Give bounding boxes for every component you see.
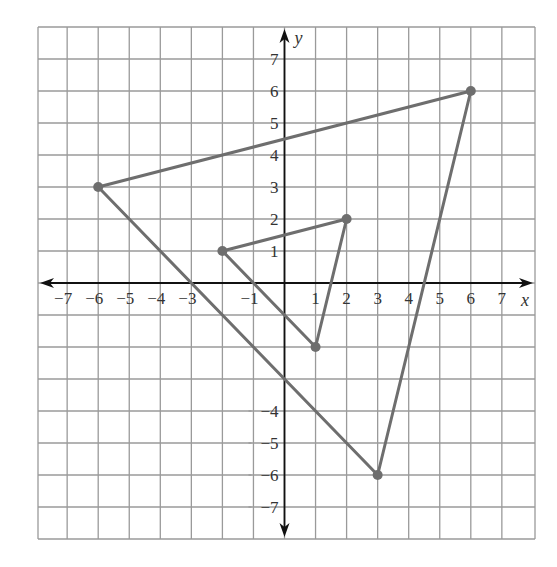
y-tick-label: 5 — [270, 114, 279, 133]
vertex-point — [466, 86, 476, 96]
x-tick-label: −6 — [85, 289, 103, 308]
y-tick-label: 7 — [270, 50, 279, 69]
y-axis-label: y — [293, 28, 303, 48]
x-tick-label: −3 — [178, 289, 196, 308]
x-tick-label: 2 — [342, 289, 351, 308]
vertex-point — [342, 214, 352, 224]
x-tick-label: −7 — [54, 289, 73, 308]
y-tick-label: 1 — [270, 242, 279, 261]
vertex-point — [217, 246, 227, 256]
y-tick-label: 2 — [270, 210, 279, 229]
x-tick-label: −1 — [240, 289, 258, 308]
y-tick-label: −7 — [260, 498, 279, 517]
coordinate-plane: −7−6−5−4−3−112345677654321−4−5−6−7xy — [0, 0, 557, 567]
y-tick-label: −5 — [260, 434, 278, 453]
y-tick-label: −4 — [260, 402, 279, 421]
y-tick-label: 4 — [270, 146, 279, 165]
vertex-point — [373, 470, 383, 480]
x-tick-label: 4 — [404, 289, 413, 308]
x-axis-label: x — [520, 290, 529, 310]
y-tick-label: 3 — [270, 178, 279, 197]
x-tick-label: 3 — [373, 289, 382, 308]
y-tick-label: 6 — [270, 82, 279, 101]
x-tick-label: 7 — [498, 289, 507, 308]
vertex-point — [311, 342, 321, 352]
y-tick-label: −6 — [260, 466, 278, 485]
x-tick-label: 5 — [436, 289, 445, 308]
x-tick-label: 6 — [467, 289, 476, 308]
axes — [40, 29, 533, 537]
x-tick-label: −5 — [116, 289, 134, 308]
x-tick-label: 1 — [311, 289, 320, 308]
vertex-point — [93, 182, 103, 192]
x-tick-label: −4 — [147, 289, 166, 308]
